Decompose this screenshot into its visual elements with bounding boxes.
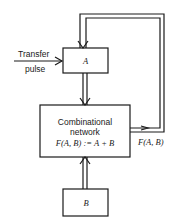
register-b-label: B <box>83 198 88 208</box>
output-label: F(A, B) <box>137 137 164 147</box>
network-subtitle: network <box>70 127 101 137</box>
pulse-label: pulse <box>25 64 46 74</box>
register-transfer-diagram: Transfer pulse A Combinational network F… <box>0 0 181 222</box>
b-to-network-bus <box>80 157 90 189</box>
network-title: Combinational <box>58 117 112 127</box>
register-a-label: A <box>82 56 89 66</box>
a-to-network-bus <box>80 73 90 105</box>
transfer-label: Transfer <box>18 49 50 59</box>
network-equation: F(A, B) := A + B <box>55 138 114 148</box>
